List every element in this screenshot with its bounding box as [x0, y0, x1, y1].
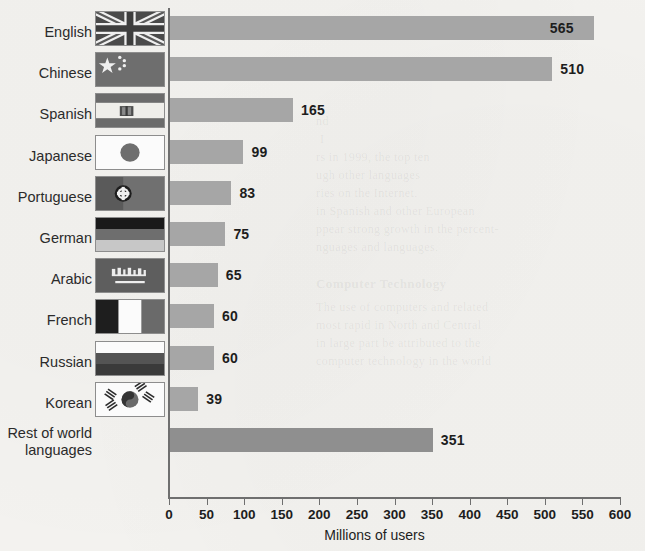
- bar-value-label: 565: [550, 20, 574, 36]
- x-tick: [244, 499, 245, 505]
- x-tick-label: 300: [383, 507, 406, 522]
- bar: [169, 263, 218, 287]
- chart-row: French60: [0, 304, 645, 342]
- x-tick: [620, 499, 621, 505]
- x-axis-title-text: Millions of users: [324, 527, 424, 543]
- bar-value-label: 60: [222, 308, 238, 324]
- bar-value-label: 75: [233, 226, 249, 242]
- x-tick-label: 0: [165, 507, 173, 522]
- x-tick-label: 450: [496, 507, 519, 522]
- x-tick: [169, 499, 170, 505]
- chart-row: Rest of world languages351: [0, 428, 645, 466]
- japan-flag: [95, 135, 165, 170]
- category-label: Arabic: [51, 271, 92, 288]
- bar-value-label: 39: [206, 391, 222, 407]
- bar: [169, 304, 214, 328]
- x-tick-label: 250: [346, 507, 369, 522]
- category-label: Chinese: [39, 65, 92, 82]
- category-label: Portuguese: [18, 189, 92, 206]
- bar: [169, 346, 214, 370]
- united-kingdom-flag: [95, 11, 165, 46]
- x-tick-label: 400: [458, 507, 481, 522]
- x-tick-label: 200: [308, 507, 331, 522]
- chart-row: Spanish165: [0, 98, 645, 136]
- bar-value-label: 83: [239, 185, 255, 201]
- bar-value-label: 165: [301, 102, 325, 118]
- spain-flag: [95, 93, 165, 128]
- x-tick-label: 550: [571, 507, 594, 522]
- chart-row: English565: [0, 16, 645, 54]
- language-users-bar-chart: English565Chinese510Spanish165Japanese99…: [0, 0, 645, 551]
- category-label: Russian: [40, 354, 92, 371]
- bar: [169, 428, 433, 452]
- x-tick: [582, 499, 583, 505]
- chart-row: Korean39: [0, 387, 645, 425]
- x-tick: [357, 499, 358, 505]
- bar: [169, 181, 231, 205]
- bar: [169, 16, 594, 40]
- chart-row: Chinese510: [0, 57, 645, 95]
- category-label: Spanish: [40, 106, 92, 123]
- x-tick-label: 600: [609, 507, 632, 522]
- x-tick: [207, 499, 208, 505]
- bar-value-label: 510: [560, 61, 584, 77]
- category-label: Korean: [45, 395, 92, 412]
- x-tick: [432, 499, 433, 505]
- x-tick: [470, 499, 471, 505]
- x-tick-label: 50: [199, 507, 214, 522]
- x-tick: [395, 499, 396, 505]
- category-label: German: [40, 230, 92, 247]
- russia-flag: [95, 341, 165, 376]
- bar: [169, 387, 198, 411]
- saudi-arabia-flag: [95, 258, 165, 293]
- france-flag: [95, 299, 165, 334]
- bar: [169, 98, 293, 122]
- bar-value-label: 65: [226, 267, 242, 283]
- chart-row: German75: [0, 222, 645, 260]
- bar-value-label: 99: [251, 144, 267, 160]
- x-axis-title: Millions of users: [0, 527, 645, 543]
- chart-row: Portuguese83: [0, 181, 645, 219]
- x-tick: [507, 499, 508, 505]
- x-tick: [545, 499, 546, 505]
- bar: [169, 57, 552, 81]
- south-korea-flag: [95, 382, 165, 417]
- bar: [169, 222, 225, 246]
- category-label: French: [47, 312, 92, 329]
- x-tick-label: 150: [270, 507, 293, 522]
- germany-flag: [95, 217, 165, 252]
- x-tick-label: 350: [421, 507, 444, 522]
- category-label: English: [44, 24, 92, 41]
- x-tick-label: 500: [534, 507, 557, 522]
- bar-value-label: 351: [441, 432, 465, 448]
- category-label: Japanese: [29, 148, 92, 165]
- bar-value-label: 60: [222, 350, 238, 366]
- chart-row: Russian60: [0, 346, 645, 384]
- bar: [169, 140, 243, 164]
- y-axis-line: [168, 8, 170, 498]
- x-tick-label: 100: [233, 507, 256, 522]
- portugal-flag: [95, 176, 165, 211]
- x-tick: [319, 499, 320, 505]
- china-flag: [95, 52, 165, 87]
- x-tick: [282, 499, 283, 505]
- category-label: Rest of world languages: [0, 425, 92, 458]
- chart-row: Japanese99: [0, 140, 645, 178]
- chart-row: Arabic65: [0, 263, 645, 301]
